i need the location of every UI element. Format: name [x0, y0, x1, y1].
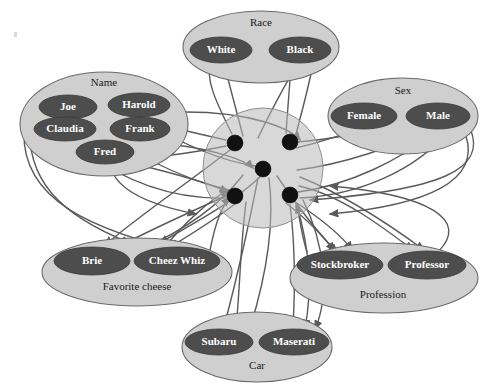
- group-label-name: Name: [91, 76, 117, 88]
- group-car[interactable]: CarSubaruMaserati: [182, 312, 332, 382]
- value-label-maserati: Maserati: [273, 335, 315, 347]
- hub-layer: [203, 108, 323, 228]
- hidden-node-5[interactable]: [282, 187, 298, 203]
- group-profession[interactable]: ProfessionStockbrokerProfessor: [290, 243, 478, 313]
- value-label-frank: Frank: [125, 122, 155, 134]
- group-race[interactable]: RaceWhiteBlack: [183, 11, 339, 83]
- value-label-claudia: Claudia: [46, 122, 84, 134]
- group-name[interactable]: NameJoeHaroldClaudiaFrankFred: [20, 72, 188, 176]
- value-label-joe: Joe: [60, 100, 76, 112]
- hidden-node-2[interactable]: [282, 134, 298, 150]
- value-label-fred: Fred: [94, 145, 116, 157]
- group-label-car: Car: [249, 359, 265, 371]
- value-label-white: White: [207, 43, 236, 55]
- relational-diagram: RaceWhiteBlackNameJoeHaroldClaudiaFrankF…: [0, 0, 495, 391]
- group-label-profession: Profession: [360, 288, 407, 300]
- hidden-node-4[interactable]: [227, 188, 243, 204]
- value-label-brie: Brie: [82, 254, 102, 266]
- hidden-node-cluster[interactable]: [203, 108, 323, 228]
- diagram-canvas: RaceWhiteBlackNameJoeHaroldClaudiaFrankF…: [0, 0, 495, 391]
- value-label-cheez-whiz: Cheez Whiz: [149, 254, 205, 266]
- value-label-professor: Professor: [405, 258, 450, 270]
- value-label-female: Female: [347, 109, 381, 121]
- value-label-black: Black: [287, 43, 315, 55]
- group-favorite-cheese[interactable]: Favorite cheeseBrieCheez Whiz: [42, 238, 232, 306]
- group-label-sex: Sex: [395, 84, 412, 96]
- value-label-stockbroker: Stockbroker: [311, 258, 370, 270]
- edge-e29: [290, 205, 295, 328]
- group-label-race: Race: [250, 16, 272, 28]
- value-label-male: Male: [426, 109, 450, 121]
- group-label-favorite-cheese: Favorite cheese: [103, 280, 172, 292]
- value-label-harold: Harold: [122, 98, 155, 110]
- hidden-node-1[interactable]: [227, 135, 243, 151]
- group-sex[interactable]: SexFemaleMale: [328, 78, 478, 154]
- value-label-subaru: Subaru: [202, 335, 237, 347]
- hidden-node-3[interactable]: [255, 161, 271, 177]
